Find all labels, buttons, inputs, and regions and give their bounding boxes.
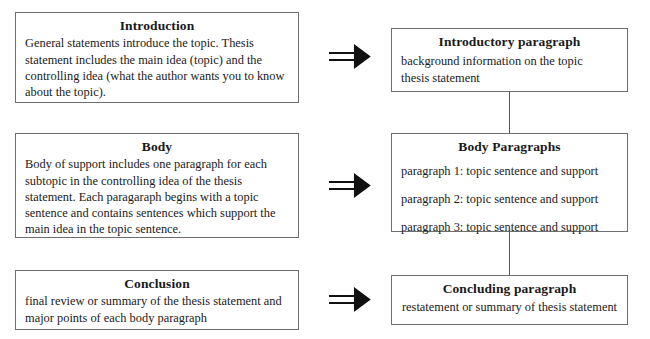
introduction-box-title: Introduction bbox=[25, 18, 289, 34]
introduction-box-body: General statements introduce the topic. … bbox=[25, 35, 289, 100]
conclusion-box: Conclusion final review or summary of th… bbox=[15, 270, 299, 330]
concluding-paragraph-line-1: restatement or summary of thesis stateme… bbox=[401, 299, 618, 316]
list-item: paragraph 3: topic sentence and support bbox=[401, 213, 618, 241]
list-item: paragraph 2: topic sentence and support bbox=[401, 185, 618, 213]
concluding-paragraph-title: Concluding paragraph bbox=[401, 281, 618, 297]
introduction-box-text: General statements introduce the topic. … bbox=[25, 35, 289, 100]
body-paragraphs-title: Body Paragraphs bbox=[401, 139, 618, 155]
conclusion-box-body: final review or summary of the thesis st… bbox=[25, 293, 289, 326]
introductory-paragraph-title: Introductory paragraph bbox=[401, 34, 618, 50]
essay-structure-diagram: Introduction General statements introduc… bbox=[0, 0, 650, 339]
introductory-paragraph-body: background information on the topic thes… bbox=[401, 53, 618, 86]
body-box-title: Body bbox=[25, 139, 289, 155]
body-paragraphs-box: Body Paragraphs paragraph 1: topic sente… bbox=[391, 133, 628, 232]
conclusion-box-text: final review or summary of the thesis st… bbox=[25, 293, 289, 326]
introductory-paragraph-line-1: background information on the topic bbox=[401, 53, 618, 70]
introductory-paragraph-line-2: thesis statement bbox=[401, 70, 618, 87]
concluding-paragraph-box: Concluding paragraph restatement or summ… bbox=[391, 275, 628, 325]
double-right-arrow-icon bbox=[327, 173, 373, 199]
introduction-box: Introduction General statements introduc… bbox=[15, 12, 299, 103]
body-box-text: Body of support includes one paragraph f… bbox=[25, 156, 289, 237]
body-box-body: Body of support includes one paragraph f… bbox=[25, 156, 289, 237]
body-box: Body Body of support includes one paragr… bbox=[15, 133, 299, 238]
list-item: paragraph 1: topic sentence and support bbox=[401, 157, 618, 185]
double-right-arrow-icon bbox=[327, 287, 373, 313]
introductory-paragraph-box: Introductory paragraph background inform… bbox=[391, 28, 628, 92]
double-right-arrow-icon bbox=[327, 44, 373, 70]
body-paragraphs-list: paragraph 1: topic sentence and support … bbox=[401, 157, 618, 241]
conclusion-box-title: Conclusion bbox=[25, 276, 289, 292]
concluding-paragraph-body: restatement or summary of thesis stateme… bbox=[401, 299, 618, 316]
connector-line-intro-to-body bbox=[509, 92, 510, 133]
